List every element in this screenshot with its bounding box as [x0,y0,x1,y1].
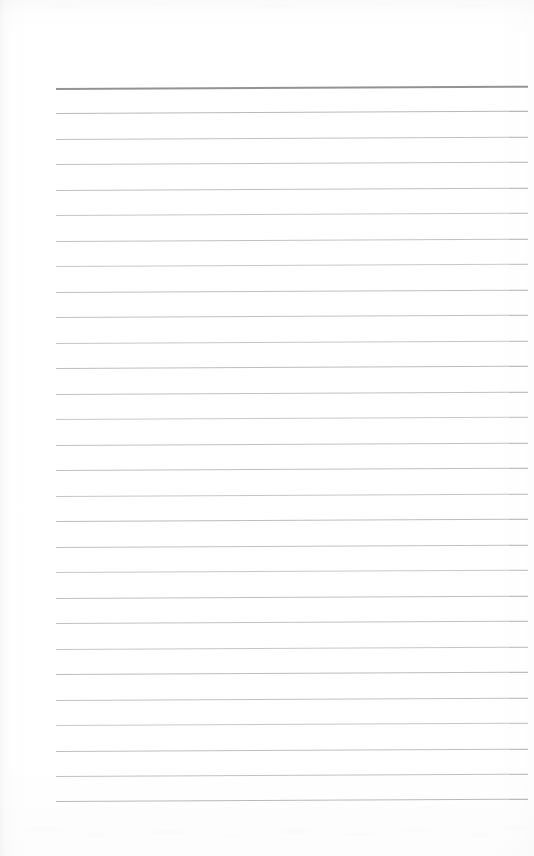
rule-line-21 [56,621,528,624]
rule-line-16 [56,494,528,497]
ruling-lines-layer [0,0,534,856]
rule-line-1 [56,111,528,114]
rule-line-17 [56,519,528,522]
rule-line-11 [56,366,528,369]
rule-line-9 [56,315,528,318]
scanned-page [0,0,534,856]
rule-line-7 [56,264,528,267]
rule-line-4 [56,188,528,191]
rule-line-8 [56,290,528,293]
rule-line-27 [56,774,528,777]
rule-line-6 [56,239,528,242]
rule-line-10 [56,341,528,344]
rule-line-5 [56,213,528,216]
rule-line-20 [56,596,528,599]
rule-line-28 [56,799,528,802]
rule-line-22 [56,647,528,650]
rule-line-18 [56,545,528,548]
rule-line-24 [56,698,528,701]
rule-line-23 [56,672,528,675]
rule-line-14 [56,443,528,446]
rule-line-2 [56,137,528,140]
header-rule [56,86,528,90]
rule-line-15 [56,468,528,471]
rule-line-13 [56,417,528,420]
rule-line-25 [56,723,528,726]
rule-line-3 [56,162,528,165]
rule-line-12 [56,392,528,395]
rule-line-19 [56,570,528,573]
rule-line-26 [56,749,528,752]
